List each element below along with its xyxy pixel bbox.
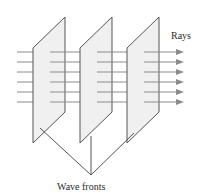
wave-front-diagram (0, 0, 200, 195)
rays-incoming (17, 52, 33, 102)
arrowhead-icons (176, 49, 184, 105)
wave-front-plane-3 (127, 17, 159, 143)
wave-front-plane-2 (80, 17, 112, 143)
rays-label: Rays (171, 30, 191, 41)
wave-fronts-label: Wave fronts (57, 181, 105, 192)
wave-front-plane-1 (33, 17, 65, 143)
